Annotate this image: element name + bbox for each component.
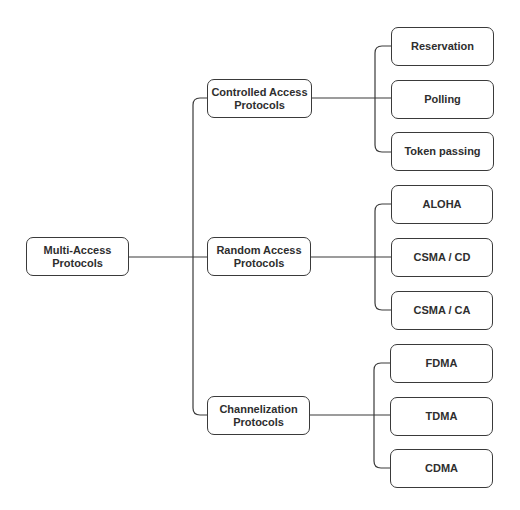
node-controlled-access-protocols: Controlled AccessProtocols <box>207 79 312 118</box>
node-token-passing: Token passing <box>391 132 494 171</box>
node-label: Polling <box>424 93 461 106</box>
node-csma-ca: CSMA / CA <box>391 291 493 330</box>
node-label: FDMA <box>426 357 458 370</box>
node-label-line2: Protocols <box>234 99 285 111</box>
node-label-line1: Random Access <box>216 244 301 256</box>
node-label-line2: Protocols <box>234 257 285 269</box>
node-label: CDMA <box>425 462 458 475</box>
node-aloha: ALOHA <box>391 185 493 224</box>
node-label-line2: Protocols <box>52 257 103 269</box>
node-label: Reservation <box>411 40 474 53</box>
node-polling: Polling <box>391 80 494 119</box>
node-fdma: FDMA <box>390 344 493 383</box>
node-cdma: CDMA <box>390 449 493 488</box>
node-label-line2: Protocols <box>233 416 284 428</box>
node-label-line1: Multi-Access <box>44 244 112 256</box>
node-label-line1: Controlled Access <box>211 86 307 98</box>
node-channelization-protocols: ChannelizationProtocols <box>207 396 310 435</box>
node-csma-cd: CSMA / CD <box>391 238 493 277</box>
node-label: CSMA / CA <box>413 304 470 317</box>
node-tdma: TDMA <box>390 397 493 436</box>
node-random-access-protocols: Random AccessProtocols <box>207 237 311 276</box>
node-multi-access-protocols: Multi-AccessProtocols <box>26 237 129 276</box>
node-label-line1: Channelization <box>219 403 297 415</box>
node-reservation: Reservation <box>391 27 494 66</box>
node-label: ALOHA <box>422 198 461 211</box>
node-label: TDMA <box>426 410 458 423</box>
node-label: CSMA / CD <box>413 251 470 264</box>
node-label: Token passing <box>404 145 480 158</box>
